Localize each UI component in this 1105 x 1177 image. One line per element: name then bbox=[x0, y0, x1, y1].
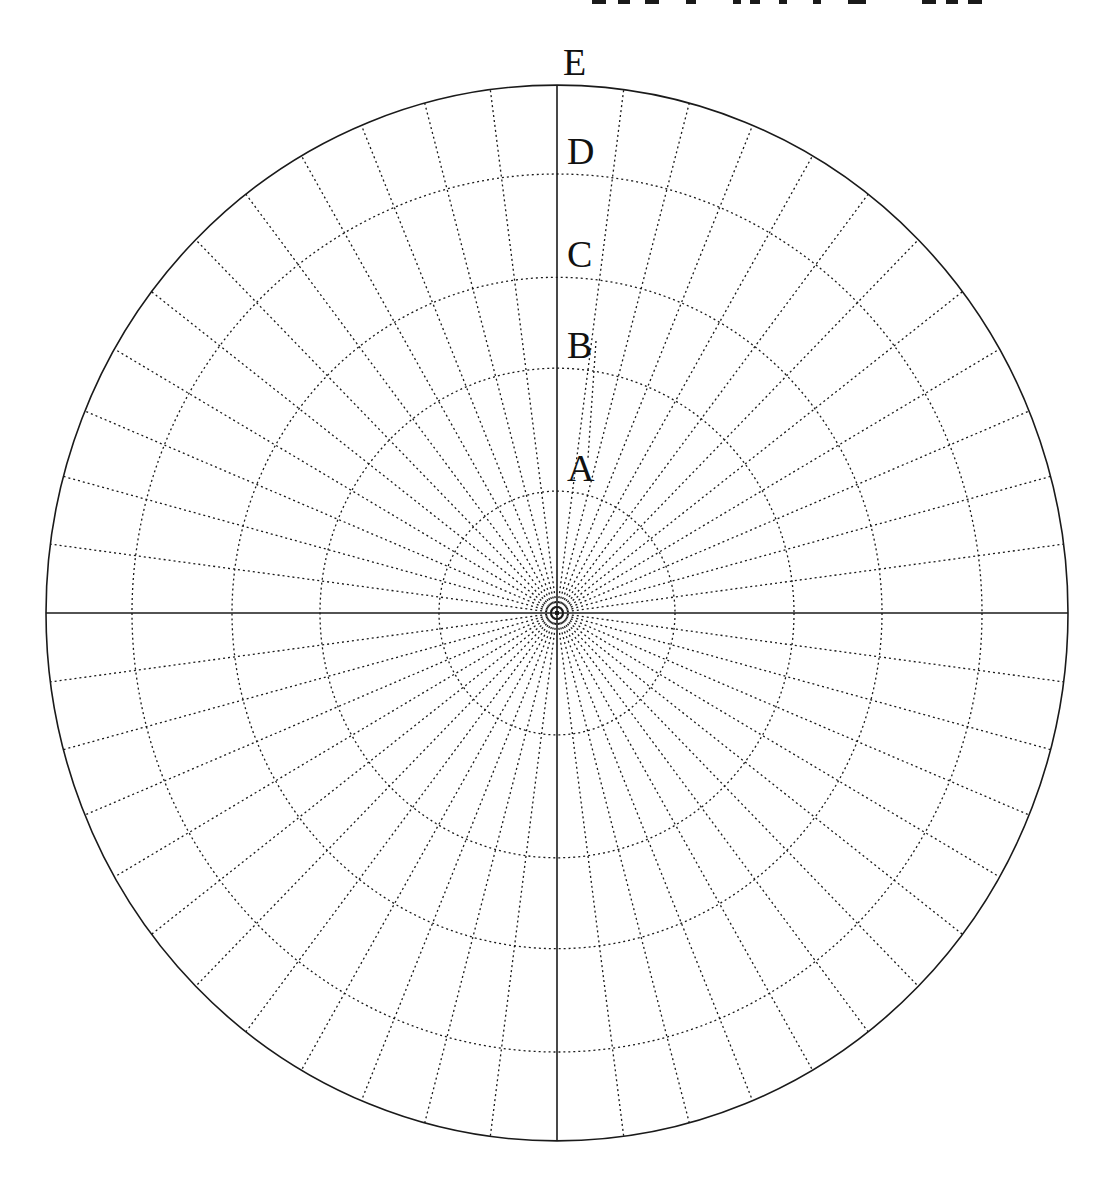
spoke-line bbox=[361, 613, 557, 1101]
spoke-line bbox=[557, 411, 1029, 613]
spoke-line bbox=[85, 411, 557, 613]
spoke-line bbox=[557, 613, 1064, 682]
ring-label-c: C bbox=[567, 233, 592, 275]
spoke-line bbox=[425, 103, 557, 613]
spoke-line bbox=[196, 613, 557, 986]
spoke-line bbox=[557, 613, 1051, 750]
polar-grid-diagram: ABCDE bbox=[0, 0, 1105, 1177]
spoke-line bbox=[115, 613, 558, 877]
spoke-line bbox=[50, 613, 557, 682]
spoke-line bbox=[557, 125, 753, 613]
spoke-line bbox=[85, 613, 557, 815]
ring-label-e: E bbox=[563, 41, 586, 83]
spoke-line bbox=[361, 125, 557, 613]
spoke-line bbox=[246, 613, 557, 1032]
spoke-line bbox=[557, 613, 624, 1136]
spoke-line bbox=[557, 613, 813, 1070]
spoke-line bbox=[557, 613, 1029, 815]
ring-label-a: A bbox=[567, 447, 595, 489]
spoke-line bbox=[302, 156, 558, 613]
spoke-line bbox=[557, 613, 1000, 877]
spoke-line bbox=[557, 240, 918, 613]
axes bbox=[46, 85, 1068, 1141]
spoke-line bbox=[557, 613, 918, 986]
spoke-line bbox=[302, 613, 558, 1070]
spoke-line bbox=[246, 194, 557, 613]
ring-label-d: D bbox=[567, 130, 594, 172]
spoke-line bbox=[50, 544, 557, 613]
spoke-line bbox=[490, 90, 557, 613]
ring-label-b: B bbox=[567, 324, 592, 366]
spoke-line bbox=[557, 544, 1064, 613]
spoke-line bbox=[557, 156, 813, 613]
spoke-line bbox=[557, 613, 753, 1101]
spoke-line bbox=[557, 349, 1000, 613]
spoke-line bbox=[557, 194, 868, 613]
spoke-line bbox=[196, 240, 557, 613]
spoke-line bbox=[557, 613, 868, 1032]
spoke-line bbox=[490, 613, 557, 1136]
spoke-line bbox=[115, 349, 558, 613]
spoke-line bbox=[63, 613, 557, 750]
